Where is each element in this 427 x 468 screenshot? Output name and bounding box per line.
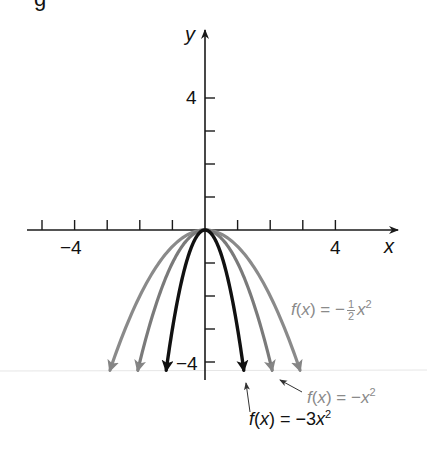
label-var: x [357, 300, 366, 319]
y-tick-label-4: 4 [186, 88, 197, 107]
label-exponent: 2 [366, 298, 372, 310]
label-x: x [260, 409, 269, 429]
label-exponent: 2 [325, 408, 331, 420]
x-tick-label-4: 4 [330, 238, 341, 257]
y-tick-label-neg4: −4 [176, 354, 198, 373]
curve-neg-x-squared-left [138, 230, 205, 370]
leader-arrow-neg-one [280, 380, 302, 392]
figure-canvas: g y x −4 4 4 −4 f(x) = [0, 0, 427, 468]
label-equals: ) = −3 [269, 409, 316, 429]
label-x: x [301, 300, 310, 319]
label-neg-x-squared: f(x) = −x2 [307, 387, 376, 406]
curve-neg-three-x-squared-right [205, 230, 244, 370]
label-equals: ) = − [326, 388, 361, 407]
curve-neg-x-squared-right [205, 230, 272, 370]
scan-line [0, 370, 427, 371]
label-neg-three-x-squared: f(x) = −3x2 [249, 409, 331, 428]
fraction-one-half: 12 [347, 299, 355, 322]
label-equals: ) = − [310, 300, 345, 319]
label-half-x-squared: f(x) = −12x2 [291, 299, 372, 322]
x-axis-label: x [384, 236, 394, 256]
label-exponent: 2 [369, 386, 375, 398]
label-var: x [316, 409, 325, 429]
fraction-denominator: 2 [347, 311, 355, 322]
label-x: x [317, 388, 326, 407]
x-tick-label-neg4: −4 [60, 238, 82, 257]
curve-neg-three-x-squared-left [166, 230, 205, 370]
leader-arrow-neg-three [246, 383, 250, 412]
axes [27, 30, 398, 380]
y-axis-label: y [185, 24, 195, 44]
